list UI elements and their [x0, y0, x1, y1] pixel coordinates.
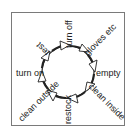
step-label-clean-inside: clean inside [87, 81, 128, 122]
step-label-empty: empty [96, 68, 121, 78]
step-label-restock: restock [63, 94, 73, 124]
step-label-turn-on: turn on [16, 68, 44, 78]
step-label-gloves-etc: gloves etc [82, 21, 118, 57]
step-label-turn-off: turn off [64, 20, 74, 48]
cycle-diagram: turn off gloves etc empty clean inside r… [0, 0, 137, 137]
step-label-clean-outside: clean outside [16, 79, 61, 124]
